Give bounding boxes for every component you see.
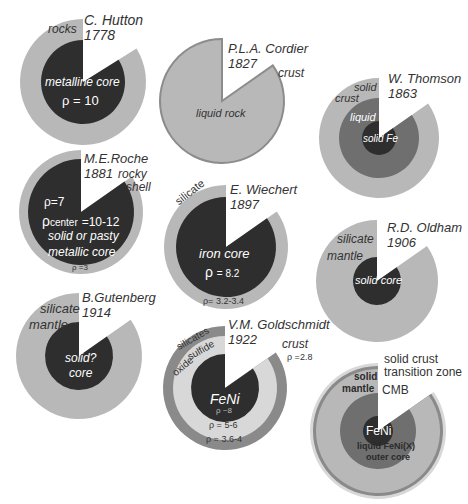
hutton-author: C. Hutton (84, 13, 143, 27)
gutenberg-year: 1914 (82, 306, 111, 319)
goldschmidt-core-label: FeNi (210, 392, 240, 406)
thomson-year: 1863 (388, 87, 417, 100)
roche-author: M.E.Roche (84, 152, 148, 165)
wiechert-core-density: ρ = 8.2 (205, 265, 239, 279)
modern-solid-label: solid (354, 372, 377, 382)
rho-symbol: ρ (205, 264, 213, 280)
roche-rocky-label: rocky (118, 168, 147, 180)
cordier-liquid-label: liquid rock (196, 108, 246, 119)
oldham-core-label: solid core (355, 275, 402, 286)
rho-value: =10-12 (82, 215, 120, 229)
modern-solid-crust-label: solid crust (384, 353, 438, 365)
goldschmidt-crust-density: ρ =2.8 (287, 353, 312, 362)
roche-density-7: ρ=7 (44, 196, 65, 208)
goldschmidt-year: 1922 (228, 333, 257, 346)
gutenberg-silicate-label: silicate (40, 302, 80, 315)
wiechert-shell-density: ρ= 3.2-3.4 (203, 297, 244, 306)
goldschmidt-silicate-density: ρ = 3.6-4 (206, 435, 242, 444)
modern-outer-core-label-1: liquid FeNi(X) (357, 442, 415, 451)
goldschmidt-author: V.M. Goldschmidt (228, 318, 330, 331)
rho-symbol: ρ (42, 213, 50, 229)
modern-feni-label: FeNi (366, 425, 391, 437)
hutton-rocks-label: rocks (48, 23, 77, 35)
gutenberg-mantle-label: mantle (29, 318, 68, 331)
goldschmidt-core-density: ρ ~8 (216, 407, 232, 415)
earth-models-diagram: C. Hutton 1778 rocks metalline core ρ = … (0, 0, 468, 504)
roche-density-3: ρ =3 (72, 264, 88, 272)
hutton-year: 1778 (84, 28, 115, 42)
modern-outer-core-label-2: outer core (366, 453, 410, 462)
hutton-core-label: metalline core (45, 76, 120, 88)
thomson-author: W. Thomson (388, 72, 461, 85)
layer-liquid-rock (160, 39, 284, 163)
goldschmidt-crust-label: crust (282, 338, 308, 350)
rho-subscript: center (50, 217, 78, 228)
roche-core-label-1: solid or pasty (48, 230, 119, 242)
cordier-author: P.L.A. Cordier (228, 42, 308, 55)
cordier-crust-label: crust (278, 67, 304, 79)
wiechert-year: 1897 (230, 198, 259, 211)
gutenberg-author: B.Gutenberg (82, 291, 156, 304)
roche-density-center: ρcenter =10-12 (42, 214, 119, 228)
hutton-density: ρ = 10 (62, 94, 99, 107)
gutenberg-core-label-2: core (69, 367, 92, 379)
thomson-fe-label: solid Fe (363, 134, 398, 144)
goldschmidt-oxide-density: ρ = 5-6 (209, 421, 237, 430)
wiechert-core-label: iron core (199, 247, 250, 260)
roche-core-label-2: metallic core (48, 246, 115, 258)
roche-year: 1881 (84, 167, 113, 180)
modern-cmb-label: CMB (382, 384, 409, 396)
roche-shell-label: shell (126, 181, 151, 193)
thomson-liquid-label: liquid (350, 112, 376, 123)
modern-transition-label: transition zone (384, 366, 462, 378)
oldham-author: R.D. Oldham (387, 221, 462, 234)
wiechert-author: E. Wiechert (230, 183, 297, 196)
cordier-year: 1827 (228, 57, 257, 70)
modern-mantle-label: mantle (342, 384, 374, 394)
oldham-silicate-label: silicate (337, 233, 374, 245)
oldham-mantle-label: mantle (327, 250, 363, 262)
gutenberg-core-label-1: solid? (65, 352, 96, 364)
sphere-cordier (160, 39, 284, 163)
rho-value: = 8.2 (217, 268, 240, 279)
oldham-year: 1906 (387, 236, 416, 249)
thomson-crust-label: crust (335, 93, 359, 104)
